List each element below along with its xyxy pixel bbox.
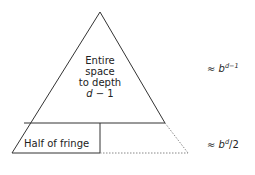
equation-bottom: ≈ bd/2	[207, 138, 239, 150]
approx-sign: ≈	[207, 63, 219, 74]
equation-top: ≈ bd−1	[207, 62, 239, 74]
label-line: to depth	[70, 77, 130, 88]
label-line: space	[70, 66, 130, 77]
label-line: d − 1	[70, 88, 130, 99]
entire-space-label: Entire space to depth d − 1	[70, 55, 130, 99]
exponent: d−1	[225, 62, 239, 70]
depth-minus-one: − 1	[93, 88, 114, 99]
half-fringe-label: Half of fringe	[24, 138, 89, 149]
side-dotted	[165, 123, 188, 153]
divide-by-two: /2	[229, 139, 239, 150]
approx-sign: ≈	[207, 139, 219, 150]
label-line: Entire	[70, 55, 130, 66]
